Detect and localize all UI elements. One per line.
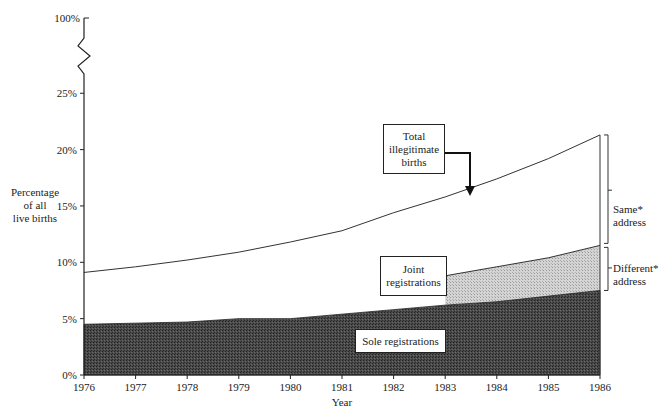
same-address-bracket [604, 135, 612, 243]
x-tick-label: 1981 [331, 381, 353, 393]
different-address-label: Different* address [613, 262, 659, 288]
total-births-label-line: Total [403, 130, 425, 143]
x-tick-label: 1984 [486, 381, 509, 393]
y-axis-line [78, 18, 90, 375]
different-address-bracket [604, 247, 612, 290]
different-address-line: address [613, 275, 659, 288]
joint-registrations-label-line: Joint [403, 263, 424, 276]
total-births-label-line: births [401, 156, 426, 169]
y-tick-label: 25% [57, 87, 77, 99]
joint-registrations-label-line: registrations [386, 276, 440, 289]
y-axis-title-line: of all [0, 199, 70, 212]
joint-registrations-label-box: Joint registrations [380, 256, 447, 296]
y-tick-label: 100% [54, 12, 80, 24]
x-tick-label: 1985 [537, 381, 560, 393]
x-tick-label: 1983 [434, 381, 457, 393]
same-address-label: Same* address [613, 203, 646, 229]
y-tick-label: 10% [57, 256, 77, 268]
y-axis-title-line: live births [0, 212, 70, 225]
y-tick-label: 20% [57, 144, 77, 156]
x-tick-label: 1978 [176, 381, 199, 393]
y-axis-title-line: Percentage [0, 186, 70, 199]
same-address-line: Same* [613, 203, 646, 216]
x-tick-label: 1976 [73, 381, 96, 393]
sole-registrations-label-box: Sole registrations [355, 329, 446, 353]
x-tick-label: 1986 [589, 381, 612, 393]
x-tick-label: 1979 [228, 381, 251, 393]
same-address-line: address [613, 216, 646, 229]
total-births-label-box: Total illegitimate births [383, 124, 445, 174]
x-tick-label: 1982 [383, 381, 405, 393]
sole-registrations-area [84, 290, 600, 375]
chart-canvas: 0%5%10%15%20%25%100%19761977197819791980… [0, 0, 665, 420]
different-address-line: Different* [613, 262, 659, 275]
arrow-connector [445, 153, 470, 190]
x-tick-label: 1980 [279, 381, 302, 393]
x-tick-label: 1977 [125, 381, 148, 393]
x-axis-title: Year [312, 396, 372, 409]
arrow-head-icon [465, 186, 475, 196]
total-births-label-line: illegitimate [389, 143, 439, 156]
y-tick-label: 0% [62, 369, 77, 381]
y-tick-label: 5% [62, 313, 77, 325]
plot-area [84, 135, 600, 375]
total-illegitimate-births-line [84, 135, 600, 272]
y-axis-title: Percentage of all live births [0, 186, 70, 225]
